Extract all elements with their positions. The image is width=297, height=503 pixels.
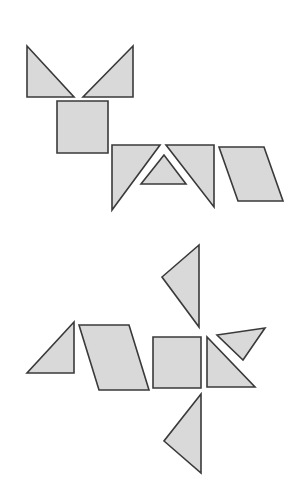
body-parallelogram — [79, 325, 149, 390]
tail-triangle — [27, 322, 74, 373]
lower-wing-triangle — [164, 394, 201, 473]
tail-parallelogram — [219, 147, 283, 201]
ear-right-triangle — [83, 46, 133, 97]
body-square — [153, 337, 201, 388]
upper-wing-triangle — [162, 245, 199, 327]
ear-left-triangle — [27, 46, 74, 97]
tangram-figure-bird — [27, 245, 265, 473]
tangram-canvas — [0, 0, 297, 503]
tangram-diagram — [0, 0, 297, 503]
head-square — [57, 101, 108, 153]
tangram-figure-cat — [27, 46, 283, 210]
